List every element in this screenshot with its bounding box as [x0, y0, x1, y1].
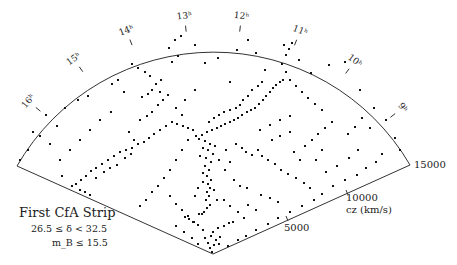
galaxy-point [247, 39, 249, 41]
galaxy-point [277, 201, 279, 203]
galaxy-point [399, 149, 401, 151]
galaxy-point [205, 199, 207, 201]
radial-axis-label: cz (km/s) [346, 204, 392, 215]
galaxy-point [237, 117, 239, 119]
galaxy-point [198, 213, 200, 215]
galaxy-point [131, 147, 133, 149]
galaxy-point [187, 215, 189, 217]
galaxy-point [293, 151, 295, 153]
galaxy-point [207, 149, 209, 151]
galaxy-point [133, 139, 135, 141]
galaxy-point [262, 99, 264, 101]
galaxy-point [160, 79, 162, 81]
galaxy-point [365, 167, 367, 169]
ra-tick-label: 11ʰ [291, 23, 309, 38]
galaxy-point [237, 211, 239, 213]
galaxy-point [267, 223, 269, 225]
galaxy-point [309, 187, 311, 189]
galaxy-point [175, 203, 177, 205]
ra-tick [185, 26, 186, 32]
galaxy-point [176, 123, 178, 125]
galaxy-point [331, 121, 333, 123]
galaxy-point [103, 171, 105, 173]
galaxy-point [184, 99, 186, 101]
galaxy-point [77, 99, 79, 101]
galaxy-point [195, 135, 197, 137]
galaxy-point [145, 199, 147, 201]
galaxy-point [209, 204, 211, 206]
galaxy-point [354, 126, 356, 128]
galaxy-point [183, 231, 185, 233]
galaxy-point [191, 237, 193, 239]
galaxy-point [204, 237, 206, 239]
ra-tick-label: 13ʰ [176, 10, 193, 22]
galaxy-point [373, 107, 375, 109]
ra-tick-label: 12ʰ [233, 10, 250, 22]
galaxy-point [146, 115, 148, 117]
galaxy-point [369, 127, 371, 129]
galaxy-point [211, 251, 213, 253]
galaxy-point [204, 165, 206, 167]
galaxy-point [107, 159, 109, 161]
galaxy-point [325, 171, 327, 173]
galaxy-point [202, 229, 204, 231]
galaxy-point [236, 49, 238, 51]
galaxy-point [261, 155, 263, 157]
galaxy-point [141, 96, 143, 98]
ra-ticks [36, 26, 395, 118]
chart-title: First CfA Strip [19, 205, 116, 220]
galaxy-point [257, 149, 259, 151]
galaxy-point [277, 217, 279, 219]
galaxy-point [90, 170, 92, 172]
galaxy-point [218, 114, 220, 116]
galaxy-point [246, 187, 248, 189]
ra-tick-label: 16ʰ [19, 92, 37, 110]
galaxy-point [168, 47, 170, 49]
galaxy-point [197, 243, 199, 245]
galaxy-point [361, 117, 363, 119]
galaxy-point [209, 247, 211, 249]
galaxy-point [375, 161, 377, 163]
galaxy-point [212, 153, 214, 155]
galaxy-point [254, 107, 256, 109]
galaxy-point [110, 111, 112, 113]
galaxy-point [317, 133, 319, 135]
ra-tick [36, 107, 41, 111]
galaxy-point [193, 221, 195, 223]
galaxy-point [111, 83, 113, 85]
galaxy-point [188, 218, 190, 220]
galaxy-point [130, 153, 132, 155]
galaxy-point [123, 91, 125, 93]
galaxy-point [95, 167, 97, 169]
galaxy-point [289, 115, 291, 117]
tick-15000: 15000 [414, 159, 446, 170]
magnitude-limit: m_B ≤ 15.5 [52, 237, 108, 248]
galaxy-point [255, 52, 257, 54]
galaxy-point [202, 181, 204, 183]
galaxy-point [174, 39, 176, 41]
galaxy-point [216, 199, 218, 201]
galaxy-point [228, 222, 230, 224]
galaxy-point [233, 179, 235, 181]
galaxy-point [280, 169, 282, 171]
galaxy-point [165, 125, 167, 127]
galaxy-point [285, 71, 287, 73]
galaxy-point [344, 61, 346, 63]
galaxy-point [149, 75, 151, 77]
outer-arc [17, 52, 410, 166]
galaxy-point [217, 57, 219, 59]
galaxy-point [298, 59, 300, 61]
galaxy-point [357, 149, 359, 151]
galaxy-point [184, 216, 186, 218]
galaxy-point [213, 189, 215, 191]
galaxy-point [177, 55, 179, 57]
galaxy-point [348, 157, 350, 159]
galaxy-point [224, 123, 226, 125]
galaxy-point [79, 139, 81, 141]
galaxy-point [282, 79, 284, 81]
galaxy-point [259, 129, 261, 131]
galaxy-point [218, 159, 220, 161]
galaxy-point [310, 72, 312, 74]
galaxy-point [209, 143, 211, 145]
galaxy-point [206, 175, 208, 177]
